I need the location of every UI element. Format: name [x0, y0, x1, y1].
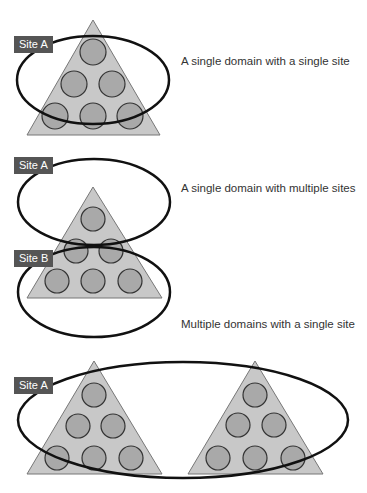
- site-a-label: Site A: [14, 36, 53, 53]
- diagram-single-domain-multiple-sites: [18, 159, 170, 337]
- site-a-label: Site A: [14, 377, 53, 394]
- diagram-canvas: [0, 0, 367, 493]
- site-b-label: Site B: [14, 250, 53, 267]
- diagram-multiple-domains-single-site: [18, 361, 348, 478]
- site-a-label: Site A: [14, 157, 53, 174]
- caption-single-domain-multiple-sites: A single domain with multiple sites: [181, 182, 356, 194]
- caption-multiple-domains-single-site: Multiple domains with a single site: [181, 318, 355, 330]
- caption-single-domain-single-site: A single domain with a single site: [181, 55, 350, 67]
